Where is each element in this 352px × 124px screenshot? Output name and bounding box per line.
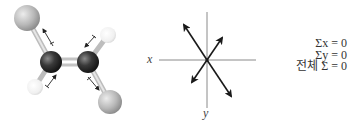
carbon-atom-right xyxy=(77,51,99,73)
vector-upper-right xyxy=(207,38,222,60)
vector-upper-left xyxy=(184,25,207,60)
vector-lower-left xyxy=(192,60,207,82)
white-atom-top-right xyxy=(100,27,116,43)
y-axis-label: y xyxy=(203,106,208,121)
dipole-arrow-top-right xyxy=(85,36,95,47)
white-atom-bottom-left xyxy=(27,79,43,95)
vector-diagram xyxy=(159,12,256,108)
gray-atom-bottom-right xyxy=(98,90,122,114)
equilibrium-equations: Σx = 0 Σy = 0 전체 Σ = 0 xyxy=(296,38,347,73)
gray-atom-top-left xyxy=(14,5,40,31)
dipole-arrow-bottom-left xyxy=(47,75,56,87)
x-axis-label: x xyxy=(147,52,152,67)
vector-lower-right xyxy=(207,60,231,96)
molecule-model xyxy=(14,5,122,114)
carbon-atom-left xyxy=(40,51,62,73)
equation-sum-total: 전체 Σ = 0 xyxy=(296,61,347,73)
